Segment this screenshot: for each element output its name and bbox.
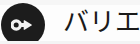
- bottom-edge-band: [0, 41, 140, 44]
- screenshot-root: バリエ: [0, 0, 140, 44]
- badge-label-text: バリエ: [63, 9, 140, 35]
- key-icon: [11, 17, 35, 33]
- badge-label: バリエ: [63, 0, 140, 44]
- key-badge[interactable]: [1, 3, 45, 44]
